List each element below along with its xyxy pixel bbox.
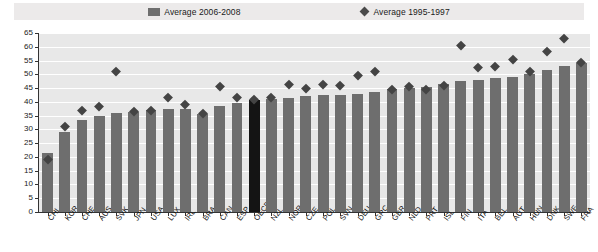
y-axis-tick-label: 20	[24, 153, 33, 161]
bar-bel[interactable]	[490, 78, 501, 212]
chart-root: Average 2006-2008 Average 1995-1997 0510…	[0, 0, 598, 252]
y-axis-tick	[35, 102, 39, 103]
x-axis-label-slot: LUX	[160, 216, 177, 252]
bar-column[interactable]	[177, 33, 194, 212]
x-axis-label-slot: AUS	[91, 216, 108, 252]
bar-column[interactable]	[487, 33, 504, 212]
x-axis-label-slot: CZE	[297, 216, 314, 252]
bar-fin[interactable]	[455, 81, 466, 212]
bar-bra[interactable]	[197, 114, 208, 212]
bar-column[interactable]	[142, 33, 159, 212]
diamond-marker-kor	[60, 122, 69, 131]
x-axis-label-slot: DNK	[538, 216, 555, 252]
y-axis-tick-label: 35	[24, 112, 33, 120]
bar-column[interactable]	[56, 33, 73, 212]
bar-column[interactable]	[125, 33, 142, 212]
x-axis-label-slot: CHL	[39, 216, 56, 252]
bar-column[interactable]	[228, 33, 245, 212]
bar-column[interactable]	[538, 33, 555, 212]
bar-prt[interactable]	[421, 87, 432, 212]
bar-column[interactable]	[73, 33, 90, 212]
bar-column[interactable]	[263, 33, 280, 212]
x-axis-label-slot: NLD	[401, 216, 418, 252]
bar-gbr[interactable]	[387, 89, 398, 212]
y-axis-tick-label: 30	[24, 125, 33, 133]
bar-column[interactable]	[435, 33, 452, 212]
bar-swe[interactable]	[559, 66, 570, 212]
bar-column[interactable]	[246, 33, 263, 212]
bar-dnk[interactable]	[542, 70, 553, 212]
bar-pol[interactable]	[318, 95, 329, 212]
bar-svn[interactable]	[335, 95, 346, 212]
x-axis-label-slot: FIN	[452, 216, 469, 252]
diamond-marker-bel	[491, 61, 500, 70]
x-axis-label-slot: NOR	[280, 216, 297, 252]
bar-column[interactable]	[418, 33, 435, 212]
bar-column[interactable]	[315, 33, 332, 212]
bar-column[interactable]	[504, 33, 521, 212]
bar-column[interactable]	[160, 33, 177, 212]
bar-column[interactable]	[211, 33, 228, 212]
diamond-marker-grc	[370, 67, 379, 76]
bar-jpn[interactable]	[128, 112, 139, 213]
x-axis-label-slot: CAN	[211, 216, 228, 252]
bar-can[interactable]	[214, 106, 225, 212]
bar-aus[interactable]	[94, 116, 105, 212]
bar-column[interactable]	[39, 33, 56, 212]
bar-column[interactable]	[280, 33, 297, 212]
x-axis-label-slot: JPN	[125, 216, 142, 252]
bar-kor[interactable]	[59, 132, 70, 212]
bar-usa[interactable]	[146, 110, 157, 212]
bar-column[interactable]	[452, 33, 469, 212]
bar-nld[interactable]	[404, 88, 415, 212]
bar-grc[interactable]	[369, 92, 380, 212]
bar-column[interactable]	[383, 33, 400, 212]
bar-cze[interactable]	[300, 96, 311, 212]
y-axis-tick	[35, 116, 39, 117]
bar-column[interactable]	[573, 33, 590, 212]
bar-hun[interactable]	[524, 74, 535, 212]
bar-che[interactable]	[77, 120, 88, 212]
bar-column[interactable]	[556, 33, 573, 212]
bar-oecd[interactable]	[249, 100, 260, 212]
y-axis-tick	[35, 47, 39, 48]
bar-column[interactable]	[469, 33, 486, 212]
bar-column[interactable]	[297, 33, 314, 212]
y-axis-tick	[35, 143, 39, 144]
x-axis-label-slot: ISL	[435, 216, 452, 252]
bar-lux[interactable]	[163, 109, 174, 212]
bar-swatch-icon	[148, 8, 160, 16]
y-axis-tick	[35, 198, 39, 199]
x-axis-label-slot: IRL	[177, 216, 194, 252]
bar-column[interactable]	[401, 33, 418, 212]
bar-ita[interactable]	[473, 80, 484, 212]
bar-column[interactable]	[108, 33, 125, 212]
x-axis-label-slot: GBR	[383, 216, 400, 252]
diamond-marker-svn	[336, 81, 345, 90]
x-axis-label-slot: PRT	[418, 216, 435, 252]
bar-svk[interactable]	[111, 113, 122, 212]
bar-column[interactable]	[332, 33, 349, 212]
bar-fra[interactable]	[576, 63, 587, 212]
diamond-marker-can	[215, 82, 224, 91]
bar-column[interactable]	[521, 33, 538, 212]
diamond-marker-dnk	[542, 46, 551, 55]
bar-column[interactable]	[349, 33, 366, 212]
bar-isl[interactable]	[438, 84, 449, 212]
bar-column[interactable]	[194, 33, 211, 212]
bar-series-container	[39, 33, 590, 212]
x-axis-label-slot: SWE	[556, 216, 573, 252]
diamond-marker-cze	[301, 83, 310, 92]
y-axis-tick	[35, 61, 39, 62]
bar-column[interactable]	[91, 33, 108, 212]
bar-deu[interactable]	[352, 94, 363, 212]
bar-column[interactable]	[366, 33, 383, 212]
x-axis-label-slot: POL	[315, 216, 332, 252]
bar-nzl[interactable]	[266, 99, 277, 212]
y-axis-tick	[35, 129, 39, 130]
bar-nor[interactable]	[283, 98, 294, 212]
bar-esp[interactable]	[232, 103, 243, 212]
diamond-marker-esp	[232, 93, 241, 102]
bar-irl[interactable]	[180, 109, 191, 212]
bar-aut[interactable]	[507, 77, 518, 212]
